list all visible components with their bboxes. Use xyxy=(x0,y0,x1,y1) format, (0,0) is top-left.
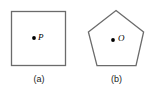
panel-b-caption: (b) xyxy=(88,74,145,84)
panel-a-caption: (a) xyxy=(11,74,67,84)
point-p-dot xyxy=(32,36,36,40)
point-o-dot xyxy=(111,38,115,42)
pentagon-outline xyxy=(88,11,143,66)
point-o-label: O xyxy=(118,34,125,43)
geometry-figure: P O (a) (b) xyxy=(0,0,148,92)
point-p-label: P xyxy=(38,33,44,42)
